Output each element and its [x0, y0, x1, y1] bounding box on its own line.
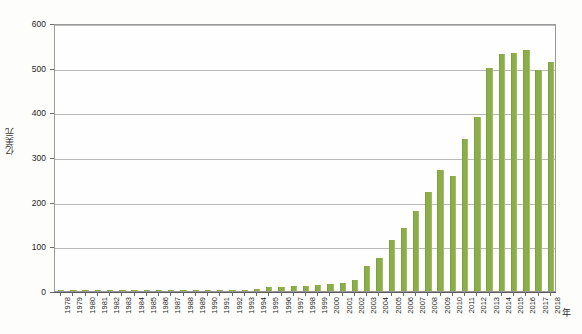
x-tick-label-1997: 1997 — [296, 297, 305, 314]
x-tick-mark-1984 — [134, 292, 135, 296]
x-tick-mark-1993 — [244, 292, 245, 296]
bar-1985 — [144, 290, 150, 292]
x-tick-label-1992: 1992 — [235, 297, 244, 314]
x-tick-mark-1992 — [232, 292, 233, 296]
bar-2015 — [511, 53, 517, 291]
bar-2010 — [450, 176, 456, 291]
bar-2012 — [474, 117, 480, 291]
bar-1984 — [131, 290, 137, 292]
bar-1999 — [315, 285, 321, 291]
x-tick-label-1998: 1998 — [308, 297, 317, 314]
bar-2007 — [413, 211, 419, 291]
bar-2003 — [364, 266, 370, 291]
bar-1986 — [156, 290, 162, 292]
x-axis-title: 年 — [562, 306, 571, 319]
x-tick-mark-2017 — [538, 292, 539, 296]
x-tick-label-2012: 2012 — [479, 297, 488, 314]
x-tick-label-2004: 2004 — [381, 297, 390, 314]
x-tick-label-1991: 1991 — [222, 297, 231, 314]
x-tick-label-2015: 2015 — [516, 297, 525, 314]
x-tick-label-2006: 2006 — [406, 297, 415, 314]
x-tick-mark-2014 — [501, 292, 502, 296]
x-tick-mark-1986 — [158, 292, 159, 296]
x-tick-mark-1983 — [121, 292, 122, 296]
x-tick-mark-1981 — [97, 292, 98, 296]
x-tick-mark-1994 — [256, 292, 257, 296]
x-tick-mark-1979 — [72, 292, 73, 296]
x-tick-label-2010: 2010 — [455, 297, 464, 314]
x-tick-label-1994: 1994 — [259, 297, 268, 314]
x-tick-label-1996: 1996 — [284, 297, 293, 314]
y-axis-tick-labels: 0100200300400500600 — [16, 0, 46, 334]
x-tick-mark-1995 — [268, 292, 269, 296]
x-tick-mark-2005 — [391, 292, 392, 296]
x-tick-mark-1987 — [170, 292, 171, 296]
y-tick-label-300: 300 — [20, 154, 46, 162]
bar-1993 — [242, 290, 248, 292]
x-tick-label-2001: 2001 — [345, 297, 354, 314]
x-tick-mark-2018 — [550, 292, 551, 296]
x-tick-label-1985: 1985 — [149, 297, 158, 314]
bar-2006 — [401, 228, 407, 291]
x-tick-label-1986: 1986 — [161, 297, 170, 314]
bar-1979 — [70, 290, 76, 292]
bar-2013 — [486, 68, 492, 291]
x-tick-label-2009: 2009 — [443, 297, 452, 314]
x-tick-mark-1990 — [207, 292, 208, 296]
x-tick-mark-1978 — [60, 292, 61, 296]
bar-2011 — [462, 139, 468, 291]
x-tick-label-1995: 1995 — [271, 297, 280, 314]
x-tick-mark-2006 — [403, 292, 404, 296]
x-tick-mark-1999 — [317, 292, 318, 296]
bar-1994 — [254, 289, 260, 291]
x-tick-label-1987: 1987 — [173, 297, 182, 314]
x-tick-mark-1980 — [85, 292, 86, 296]
bar-1989 — [193, 290, 199, 292]
bar-2008 — [425, 192, 431, 291]
bar-1980 — [82, 290, 88, 292]
bar-1988 — [180, 290, 186, 292]
x-tick-mark-2011 — [464, 292, 465, 296]
x-tick-label-1984: 1984 — [137, 297, 146, 314]
x-tick-mark-2009 — [440, 292, 441, 296]
x-tick-label-2000: 2000 — [332, 297, 341, 314]
bar-1981 — [95, 290, 101, 292]
x-tick-label-2011: 2011 — [467, 297, 476, 313]
x-tick-mark-1991 — [219, 292, 220, 296]
x-tick-mark-1998 — [305, 292, 306, 296]
bar-1982 — [107, 290, 113, 292]
x-tick-label-2014: 2014 — [504, 297, 513, 314]
x-tick-mark-2003 — [366, 292, 367, 296]
x-tick-label-1982: 1982 — [112, 297, 121, 314]
y-tick-label-400: 400 — [20, 109, 46, 117]
x-tick-label-1990: 1990 — [210, 297, 219, 314]
x-tick-mark-1982 — [109, 292, 110, 296]
bar-2002 — [352, 280, 358, 291]
plot-area — [54, 24, 556, 292]
bar-1983 — [119, 290, 125, 292]
x-tick-label-1999: 1999 — [320, 297, 329, 314]
bar-1990 — [205, 290, 211, 292]
x-tick-mark-2007 — [415, 292, 416, 296]
bar-1978 — [58, 290, 64, 292]
bar-1998 — [303, 286, 309, 291]
bar-2017 — [535, 70, 541, 291]
y-tick-label-500: 500 — [20, 65, 46, 73]
x-tick-mark-2001 — [342, 292, 343, 296]
x-tick-mark-2016 — [525, 292, 526, 296]
x-tick-label-2002: 2002 — [357, 297, 366, 314]
x-tick-label-1988: 1988 — [186, 297, 195, 314]
y-tick-label-600: 600 — [20, 20, 46, 28]
x-tick-mark-2013 — [489, 292, 490, 296]
x-tick-label-1979: 1979 — [75, 297, 84, 314]
x-tick-mark-1996 — [281, 292, 282, 296]
bar-2001 — [340, 283, 346, 291]
x-tick-label-2013: 2013 — [492, 297, 501, 314]
x-tick-mark-2004 — [378, 292, 379, 296]
x-tick-label-1980: 1980 — [88, 297, 97, 314]
bar-2004 — [376, 258, 382, 292]
bar-2016 — [523, 50, 529, 291]
x-tick-label-1983: 1983 — [124, 297, 133, 314]
x-tick-mark-2008 — [427, 292, 428, 296]
x-tick-label-1989: 1989 — [198, 297, 207, 314]
